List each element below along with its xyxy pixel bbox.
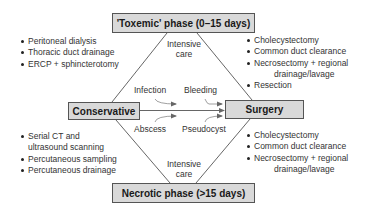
list-item: Thoracic duct drainage	[20, 47, 119, 58]
arrow-pseudocyst	[205, 116, 222, 122]
list-item: Percutaneous sampling	[20, 154, 117, 165]
bottom-intensive-care-label: Intensive care	[164, 160, 204, 180]
list-item: Peritoneal dialysis	[20, 36, 119, 47]
list-item: Cholecystectomy	[246, 130, 348, 141]
toxemic-phase-label: 'Toxemic' phase (0–15 days)	[117, 18, 251, 29]
necrotic-conservative-list: Serial CT and ultrasound scanning Percut…	[20, 131, 117, 176]
pseudocyst-label: Pseudocyst	[182, 125, 226, 135]
surgery-box: Surgery	[225, 100, 304, 119]
arrow-bleeding	[205, 99, 222, 104]
bleeding-label: Bleeding	[184, 86, 217, 96]
list-item: Serial CT and	[20, 131, 117, 142]
list-item-continuation: ultrasound scanning	[20, 142, 117, 153]
list-item: Common duct clearance	[246, 141, 348, 152]
list-item: Percutaneous drainage	[20, 165, 117, 176]
list-item: Cholecystectomy	[246, 35, 348, 46]
necrotic-phase-box: Necrotic phase (>15 days)	[112, 183, 255, 203]
surgery-label: Surgery	[246, 104, 284, 115]
pancreatitis-management-diagram: 'Toxemic' phase (0–15 days) Necrotic pha…	[0, 0, 373, 213]
arrow-infection	[155, 99, 176, 104]
toxemic-phase-box: 'Toxemic' phase (0–15 days)	[112, 13, 255, 33]
list-item-continuation: drainage/lavage	[246, 164, 348, 175]
conservative-box: Conservative	[68, 102, 140, 120]
necrotic-phase-label: Necrotic phase (>15 days)	[122, 188, 246, 199]
necrotic-surgery-list: Cholecystectomy Common duct clearance Ne…	[246, 130, 348, 175]
abscess-label: Abscess	[134, 125, 166, 135]
list-item: ERCP + sphincterotomy	[20, 59, 119, 70]
toxemic-surgery-list: Cholecystectomy Common duct clearance Ne…	[246, 35, 348, 91]
list-item: Common duct clearance	[246, 46, 348, 57]
list-item: Necrosectomy + regional	[246, 58, 348, 69]
list-item: Necrosectomy + regional	[246, 153, 348, 164]
toxemic-conservative-list: Peritoneal dialysis Thoracic duct draina…	[20, 36, 119, 70]
list-item: Resection	[246, 80, 348, 91]
top-intensive-care-label: Intensive care	[164, 40, 204, 60]
arrow-abscess	[155, 116, 176, 122]
conservative-label: Conservative	[73, 106, 136, 117]
infection-label: Infection	[134, 86, 166, 96]
list-item-continuation: drainage/lavage	[246, 69, 348, 80]
